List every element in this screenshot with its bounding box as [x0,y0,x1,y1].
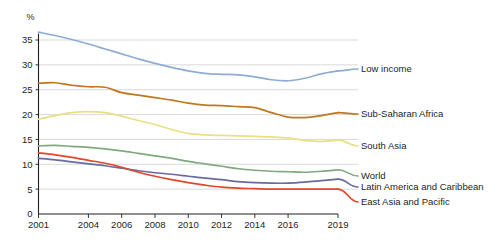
x-tick-label-2012: 2012 [211,219,232,230]
series-label-east-asia-and-pacific: East Asia and Pacific [361,196,450,207]
series-labels-group: Low incomeSub-Saharan AfricaSouth AsiaWo… [361,63,484,207]
y-tick-label-5: 5 [27,184,32,195]
series-leader-world [338,170,358,176]
x-tick-label-2016: 2016 [278,219,299,230]
series-label-low-income: Low income [361,63,412,74]
y-axis-tick-labels: 05101520253035 [22,34,33,219]
x-tick-label-2006: 2006 [111,219,132,230]
x-axis-tick-labels: 200120042006200820102012201420162019 [28,219,349,230]
series-label-south-asia: South Asia [361,140,407,151]
x-tick-label-2019: 2019 [327,219,348,230]
x-tick-label-2008: 2008 [144,219,165,230]
series-line-low-income [39,32,339,81]
series-leader-south-asia [338,140,358,146]
y-tick-label-15: 15 [22,134,33,145]
gridlines-group [39,40,359,189]
y-tick-label-20: 20 [22,109,33,120]
series-leader-sub-saharan-africa [338,113,358,114]
x-tick-label-2010: 2010 [178,219,199,230]
series-leader-latin-america-and-caribbean [338,179,358,187]
y-tick-label-0: 0 [27,208,32,219]
axes-group [36,34,339,218]
series-label-world: World [361,170,386,181]
series-leader-east-asia-and-pacific [338,189,358,202]
x-tick-label-2004: 2004 [78,219,99,230]
x-tick-label-2001: 2001 [28,219,49,230]
line-chart: 05101520253035 2001200420062008201020122… [0,0,500,252]
y-tick-label-35: 35 [22,34,33,45]
y-axis-unit-label: % [27,12,35,22]
series-leader-low-income [338,69,358,71]
y-tick-label-25: 25 [22,84,33,95]
y-tick-label-10: 10 [22,159,33,170]
series-label-latin-america-and-caribbean: Latin America and Caribbean [361,181,484,192]
chart-container: 05101520253035 2001200420062008201020122… [0,0,500,252]
series-label-sub-saharan-africa: Sub-Saharan Africa [361,108,444,119]
series-lines-group [39,32,359,202]
x-tick-label-2014: 2014 [244,219,265,230]
series-line-south-asia [39,112,339,142]
y-tick-label-30: 30 [22,59,33,70]
